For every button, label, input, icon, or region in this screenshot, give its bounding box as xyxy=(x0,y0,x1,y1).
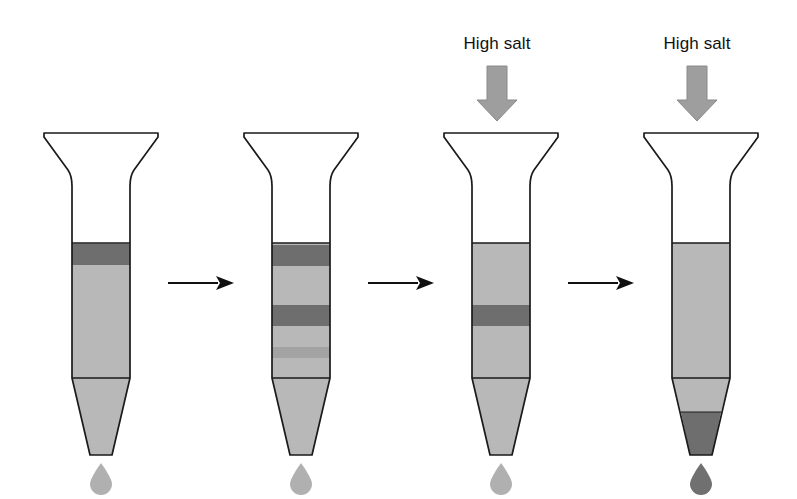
high-salt-label-column-3: High salt xyxy=(452,34,542,54)
column-2-band-lower xyxy=(272,305,330,326)
column-2-band-faint xyxy=(272,347,330,358)
chromatography-diagram xyxy=(0,0,797,499)
column-4-resin-bed xyxy=(672,243,730,378)
column-1-sample-band xyxy=(72,244,130,265)
column-3-retained-band xyxy=(472,305,530,326)
high-salt-label-column-4: High salt xyxy=(652,34,742,54)
column-4-cone-resin xyxy=(672,378,730,412)
column-2-band-upper xyxy=(272,245,330,266)
